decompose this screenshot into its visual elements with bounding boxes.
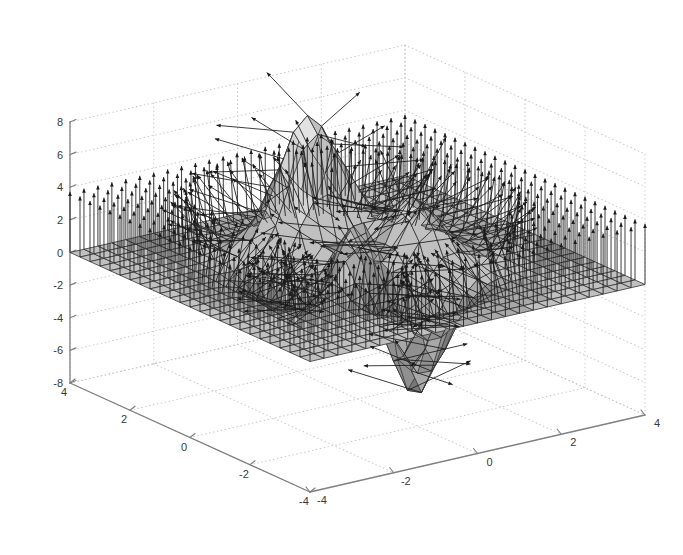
y-tick-label: 2 bbox=[121, 413, 127, 425]
z-tick-label: -2 bbox=[53, 279, 63, 291]
x-tick-label: 4 bbox=[654, 417, 660, 429]
x-tick-label: 0 bbox=[486, 456, 492, 468]
z-tick-label: 8 bbox=[57, 116, 63, 128]
z-tick-label: 2 bbox=[57, 214, 63, 226]
x-tick-label: -2 bbox=[401, 475, 411, 487]
y-tick-label: -4 bbox=[299, 495, 309, 507]
surface-plot-3d: 86420-2-4-6-8420-2-4-4-2024 bbox=[0, 0, 683, 555]
z-tick-label: -4 bbox=[53, 312, 63, 324]
x-tick-label: 2 bbox=[570, 436, 576, 448]
figure-canvas: 86420-2-4-6-8420-2-4-4-2024 bbox=[0, 0, 683, 555]
y-tick-label: -2 bbox=[239, 468, 249, 480]
z-tick-label: 0 bbox=[57, 247, 63, 259]
x-tick-label: -4 bbox=[317, 494, 327, 506]
y-tick-label: 0 bbox=[181, 441, 187, 453]
y-tick-label: 4 bbox=[61, 386, 67, 398]
z-tick-label: -6 bbox=[53, 344, 63, 356]
z-tick-label: 4 bbox=[57, 181, 63, 193]
z-tick-label: 6 bbox=[57, 149, 63, 161]
